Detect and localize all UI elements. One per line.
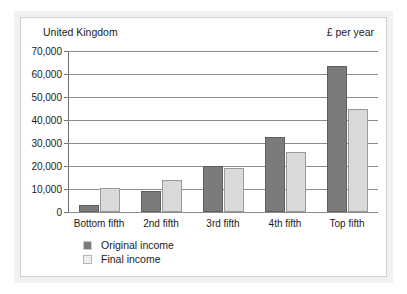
bar-final-income <box>224 168 244 212</box>
x-axis-category-label: Top fifth <box>329 218 364 229</box>
x-axis-category-label: Bottom fifth <box>74 218 125 229</box>
bar-original-income <box>79 205 99 212</box>
y-axis-tick <box>64 97 68 98</box>
x-axis-category-label: 3rd fifth <box>206 218 239 229</box>
legend-item-final: Final income <box>83 252 174 266</box>
y-axis-tick <box>64 189 68 190</box>
y-axis-tick-label: 40,000 <box>31 115 62 126</box>
y-axis-tick-label: 30,000 <box>31 138 62 149</box>
y-axis-tick <box>64 166 68 167</box>
chart-region-label: United Kingdom <box>43 26 118 38</box>
bar-original-income <box>141 191 161 212</box>
legend-item-original: Original income <box>83 238 174 252</box>
x-axis-category-label: 2nd fifth <box>143 218 179 229</box>
bar-original-income <box>203 166 223 212</box>
y-axis-tick-label: 60,000 <box>31 69 62 80</box>
plot-area: 010,00020,00030,00040,00050,00060,00070,… <box>68 51 378 212</box>
bar-original-income <box>327 66 347 212</box>
gridline <box>68 51 378 52</box>
chart-unit-label: £ per year <box>327 26 374 38</box>
legend-swatch-original <box>83 241 92 250</box>
legend-label: Original income <box>101 239 174 251</box>
y-axis-tick <box>64 120 68 121</box>
y-axis-tick <box>64 74 68 75</box>
legend-label: Final income <box>101 253 161 265</box>
y-axis-tick-label: 10,000 <box>31 184 62 195</box>
bar-final-income <box>100 188 120 212</box>
bar-final-income <box>286 152 306 212</box>
gridline <box>68 212 378 213</box>
y-axis-tick-label: 20,000 <box>31 161 62 172</box>
chart-legend: Original incomeFinal income <box>83 238 174 266</box>
bar-final-income <box>162 180 182 212</box>
x-axis-category-label: 4th fifth <box>269 218 302 229</box>
y-axis-tick-label: 50,000 <box>31 92 62 103</box>
y-axis-tick-label: 70,000 <box>31 46 62 57</box>
y-axis-tick <box>64 212 68 213</box>
bar-original-income <box>265 137 285 212</box>
y-axis-tick <box>64 143 68 144</box>
legend-swatch-final <box>83 255 92 264</box>
y-axis-tick-label: 0 <box>56 207 62 218</box>
y-axis-tick <box>64 51 68 52</box>
bar-final-income <box>348 109 368 213</box>
chart-figure: United Kingdom £ per year 010,00020,0003… <box>0 0 407 294</box>
